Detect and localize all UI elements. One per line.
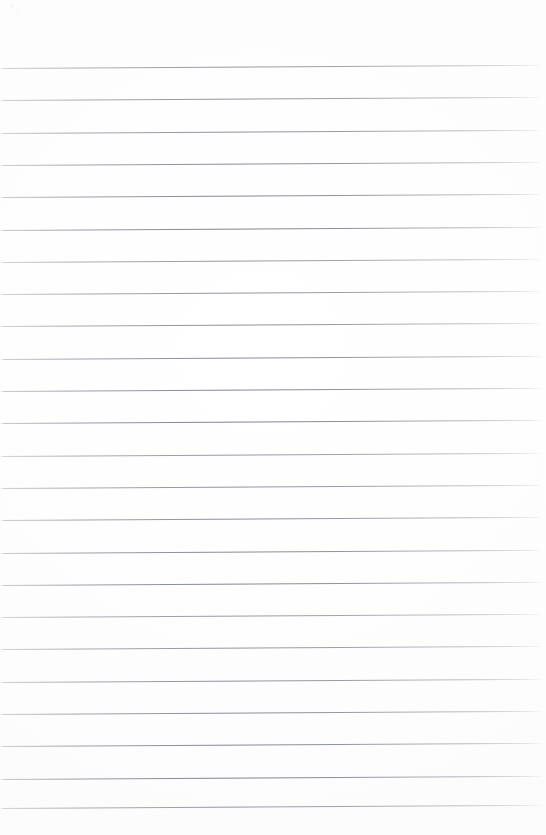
scanned-page xyxy=(0,0,546,835)
page-text-content xyxy=(0,0,546,835)
